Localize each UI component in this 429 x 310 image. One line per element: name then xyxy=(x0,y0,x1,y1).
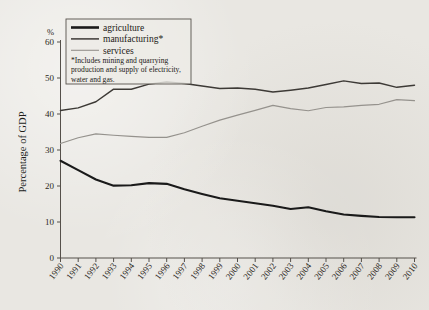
x-tick-label: 1999 xyxy=(206,261,225,282)
legend-footnote-line: water and gas. xyxy=(71,75,115,84)
legend-footnote-line: *Includes mining and quarrying xyxy=(71,56,168,65)
series-line-services xyxy=(61,100,415,144)
x-tick-label: 2009 xyxy=(383,261,402,282)
x-tick-label: 1992 xyxy=(82,261,101,281)
x-tick-label: 2005 xyxy=(312,261,331,282)
x-tick-label: 2008 xyxy=(365,261,384,282)
legend-label-services: services xyxy=(103,46,134,56)
series-line-manufacturing xyxy=(61,81,415,111)
y-tick-label: 30 xyxy=(45,145,55,155)
y-tick-label: 50 xyxy=(45,73,55,83)
y-axis-unit-label: % xyxy=(47,27,54,37)
line-chart-figure: 0102030405060% 1990199119921993199419951… xyxy=(0,0,429,310)
x-tick-label: 2004 xyxy=(294,261,313,282)
x-tick-label: 2010 xyxy=(401,261,420,282)
chart-svg: 0102030405060% 1990199119921993199419951… xyxy=(0,0,429,310)
x-tick-label: 1993 xyxy=(100,261,119,282)
legend-label-agriculture: agriculture xyxy=(103,23,144,33)
x-tick-label: 1996 xyxy=(153,261,172,282)
y-axis: 0102030405060% xyxy=(45,27,61,263)
chart-legend: agriculturemanufacturing*services*Includ… xyxy=(66,19,191,84)
x-tick-label: 2007 xyxy=(348,261,367,282)
series-lines xyxy=(61,81,415,217)
legend-footnote-line: production and supply of electricity, xyxy=(71,65,181,74)
x-tick-label: 1994 xyxy=(117,261,136,282)
legend-label-manufacturing: manufacturing* xyxy=(103,34,163,44)
x-tick-label: 1998 xyxy=(188,261,207,282)
y-tick-label: 60 xyxy=(45,37,55,47)
x-tick-label: 2002 xyxy=(259,261,278,281)
x-axis: 1990199119921993199419951996199719981999… xyxy=(47,258,420,281)
x-tick-label: 1997 xyxy=(171,261,190,282)
x-tick-label: 1995 xyxy=(135,261,154,282)
y-tick-label: 20 xyxy=(45,181,55,191)
x-tick-label: 1990 xyxy=(47,261,66,282)
series-line-agriculture xyxy=(61,161,415,218)
x-tick-label: 1991 xyxy=(64,261,83,281)
x-tick-label: 2001 xyxy=(241,261,260,281)
x-tick-label: 2006 xyxy=(330,261,349,282)
y-tick-label: 40 xyxy=(45,109,55,119)
x-tick-label: 2003 xyxy=(277,261,296,282)
y-tick-label: 10 xyxy=(45,217,55,227)
x-tick-label: 2000 xyxy=(224,261,243,282)
y-axis-title: Percentage of GDP xyxy=(17,111,28,192)
y-tick-label: 0 xyxy=(50,253,55,263)
